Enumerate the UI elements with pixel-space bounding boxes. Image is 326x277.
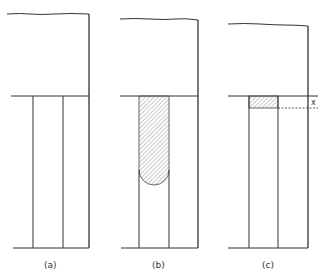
thickness-x-label: x xyxy=(311,98,316,107)
panel-a-top-wavy-line xyxy=(7,14,89,15)
panel-b-top-wavy-line xyxy=(120,19,198,21)
diagram-canvas: (a) (b) x (c) xyxy=(0,0,326,277)
panel-c-hatched-layer xyxy=(249,96,278,108)
panel-b-label: (b) xyxy=(152,260,165,270)
panel-b-hatched-region xyxy=(139,96,169,185)
panel-a-label: (a) xyxy=(44,260,57,270)
panel-c-top-wavy-line xyxy=(228,24,308,27)
panel-a xyxy=(7,14,89,249)
panel-b xyxy=(120,19,198,249)
panel-c xyxy=(228,24,318,249)
panel-c-label: (c) xyxy=(262,260,274,270)
